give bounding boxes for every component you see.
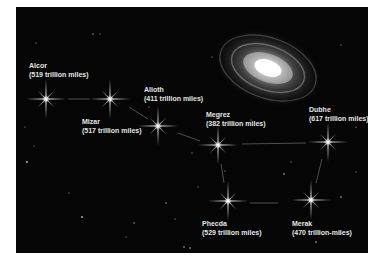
star-label-alcor: Alcor (519 trillion miles) (29, 62, 89, 79)
star-distance: (519 trillion miles) (29, 71, 89, 80)
star-label-dubhe: Dubhe (617 trillion miles) (309, 106, 368, 123)
star-name: Mizar (82, 118, 100, 125)
star-name: Phecda (202, 220, 227, 227)
star-distance: (529 trillion miles) (202, 229, 262, 238)
star-label-merak: Merak (470 trillion-miles) (292, 220, 352, 237)
night-sky-image: Alcor (519 trillion miles) Mizar (517 tr… (16, 7, 368, 253)
star-name: Megrez (206, 111, 230, 118)
star-name: Merak (292, 220, 312, 227)
star-label-megrez: Megrez (382 trillion miles) (206, 111, 266, 128)
star-name: Dubhe (309, 106, 331, 113)
star-distance: (517 trillion miles) (82, 127, 142, 136)
star-label-phecda: Phecda (529 trillion miles) (202, 220, 262, 237)
star-distance: (411 trillion miles) (144, 95, 203, 104)
star-distance: (470 trillion-miles) (292, 229, 352, 238)
constellation-lines (68, 99, 322, 203)
star-label-mizar: Mizar (517 trillion miles) (82, 118, 142, 135)
star-label-alioth: Alioth (411 trillion miles) (144, 86, 203, 103)
constellation-graphic (16, 7, 368, 253)
star-name: Alcor (29, 62, 47, 69)
star-distance: (382 trillion miles) (206, 120, 266, 129)
star-distance: (617 trillion miles) (309, 115, 368, 124)
star-name: Alioth (144, 86, 164, 93)
